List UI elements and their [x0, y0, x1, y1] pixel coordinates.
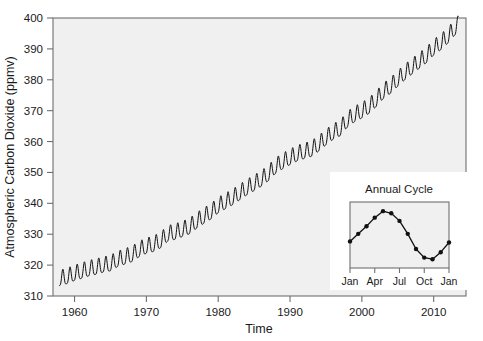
annual-cycle-point	[356, 232, 360, 236]
annual-cycle-point	[430, 257, 434, 261]
x-tick-label: 1980	[205, 306, 231, 318]
y-tick-label: 390	[24, 43, 43, 55]
annual-cycle-point	[364, 224, 368, 228]
annual-cycle-point	[447, 240, 451, 244]
y-tick-label: 320	[24, 259, 43, 271]
x-tick-label: 1990	[277, 306, 303, 318]
inset-tick-label: Apr	[367, 275, 384, 287]
annual-cycle-point	[348, 239, 352, 243]
y-tick-label: 340	[24, 197, 43, 209]
inset-tick-label: Jan	[441, 275, 458, 287]
inset-title: Annual Cycle	[365, 183, 433, 195]
annual-cycle-point	[381, 209, 385, 213]
y-tick-label: 310	[24, 290, 43, 302]
x-axis-title: Time	[245, 322, 272, 336]
annual-cycle-point	[373, 215, 377, 219]
annual-cycle-inset: Annual Cycle JanAprJulOctJan	[330, 172, 469, 290]
y-tick-label: 370	[24, 105, 43, 117]
annual-cycle-point	[406, 232, 410, 236]
x-tick-label: 1970	[134, 306, 160, 318]
y-tick-label: 330	[24, 228, 43, 240]
y-tick-label: 350	[24, 166, 43, 178]
inset-tick-label: Jul	[393, 275, 406, 287]
annual-cycle-point	[422, 255, 426, 259]
x-tick-label: 2010	[421, 306, 447, 318]
annual-cycle-point	[414, 247, 418, 251]
y-tick-label: 380	[24, 74, 43, 86]
inset-tick-label: Jan	[342, 275, 359, 287]
x-tick-label: 2000	[349, 306, 375, 318]
co2-keeling-curve-figure: 310320330340350360370380390400 196019701…	[0, 0, 483, 341]
annual-cycle-point	[439, 250, 443, 254]
annual-cycle-point	[389, 211, 393, 215]
x-tick-label: 1960	[62, 306, 88, 318]
y-tick-label: 360	[24, 136, 43, 148]
chart-canvas: 310320330340350360370380390400 196019701…	[0, 0, 483, 341]
y-tick-label: 400	[24, 12, 43, 24]
y-axis-title: Atmospheric Carbon Dioxide (ppmv)	[3, 56, 17, 257]
annual-cycle-point	[397, 219, 401, 223]
inset-tick-label: Oct	[416, 275, 432, 287]
